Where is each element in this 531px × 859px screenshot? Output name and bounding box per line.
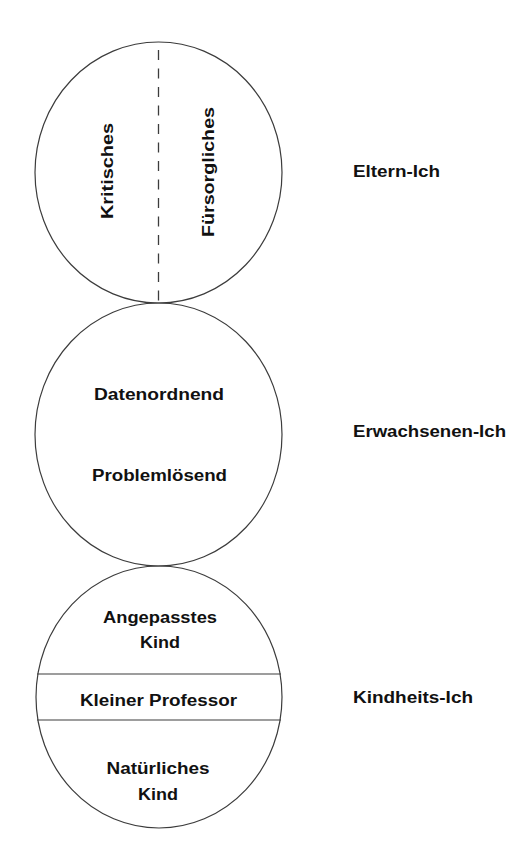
nurturing-parent-label: Fürsorgliches xyxy=(200,107,217,237)
adapted-child-label-line1: Angepasstes xyxy=(103,609,217,626)
critical-parent-label: Kritisches xyxy=(99,123,116,219)
adult-ego-state-title: Erwachsenen-Ich xyxy=(353,423,506,440)
ego-state-diagram: Kritisches Fürsorgliches Datenordnend Pr… xyxy=(0,0,531,859)
parent-circle xyxy=(35,42,282,303)
adult-circle xyxy=(35,303,282,566)
parent-ego-state: Kritisches Fürsorgliches xyxy=(35,42,282,303)
problem-solving-label: Problemlösend xyxy=(92,467,227,484)
little-professor-label: Kleiner Professor xyxy=(80,692,237,709)
child-ego-state: Angepasstes Kind Kleiner Professor Natür… xyxy=(36,566,282,828)
natural-child-label-line1: Natürliches xyxy=(107,760,210,777)
data-ordering-label: Datenordnend xyxy=(94,386,224,403)
child-ego-state-title: Kindheits-Ich xyxy=(353,689,473,706)
natural-child-label-line2: Kind xyxy=(138,786,178,803)
parent-ego-state-title: Eltern-Ich xyxy=(353,163,440,180)
adult-ego-state: Datenordnend Problemlösend xyxy=(35,303,282,566)
adapted-child-label-line2: Kind xyxy=(140,634,180,651)
